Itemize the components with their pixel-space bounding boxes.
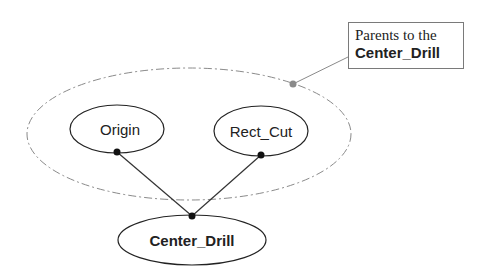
rect-cut-connection-dot	[258, 152, 265, 159]
origin-connection-dot	[114, 149, 121, 156]
node-center-drill[interactable]: Center_Drill	[118, 215, 266, 265]
callout-connector-line	[293, 57, 348, 84]
node-center-drill-label: Center_Drill	[149, 232, 234, 249]
node-rect-cut[interactable]: Rect_Cut	[214, 106, 308, 156]
node-origin-label: Origin	[100, 121, 140, 138]
node-origin[interactable]: Origin	[70, 105, 164, 153]
edge-rect-cut-to-center-drill	[192, 155, 261, 216]
callout-text-line2: Center_Drill	[355, 44, 457, 62]
center-drill-connection-dot	[189, 213, 196, 220]
parents-callout-box: Parents to the Center_Drill	[348, 22, 464, 69]
node-rect-cut-label: Rect_Cut	[230, 123, 293, 140]
callout-connector-dot	[290, 81, 297, 88]
callout-text-line1: Parents to the	[355, 26, 457, 44]
edge-origin-to-center-drill	[117, 152, 192, 216]
